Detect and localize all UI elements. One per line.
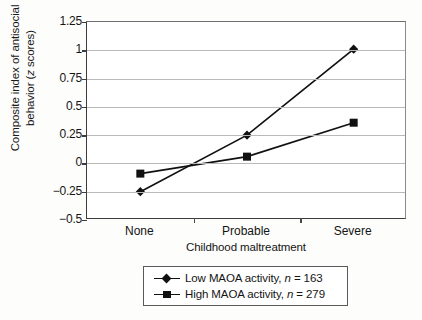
y-axis-title-line-2: behavior (z scores): [23, 0, 38, 178]
x-tick-mark: [300, 218, 301, 223]
y-tick-mark: [82, 107, 87, 108]
y-tick-label: 0.75: [38, 71, 82, 85]
y-tick-mark: [82, 22, 87, 23]
legend-label-low-maoa-post: = 163: [291, 272, 323, 284]
series-line: [140, 49, 353, 192]
y-tick-mark: [82, 220, 87, 221]
gridline: [87, 107, 405, 108]
legend-entry-high-maoa: High MAOA activity, n = 279: [154, 286, 347, 302]
y-tick-mark: [82, 192, 87, 193]
chart-legend: Low MAOA activity, n = 163 High MAOA act…: [143, 266, 348, 306]
y-tick-label: 0.25: [38, 127, 82, 141]
square-data-point: [243, 153, 251, 161]
y-tick-label: 1.25: [38, 14, 82, 28]
legend-label-low-maoa-pre: Low MAOA activity,: [185, 272, 285, 284]
x-tick-label: None: [125, 224, 154, 238]
y-axis-tick-labels: 1.2510.750.50.250−0.25−0.5: [38, 0, 82, 320]
x-axis-title: Childhood maltreatment: [86, 241, 406, 253]
legend-label-high-maoa-post: = 279: [293, 288, 325, 300]
y-axis-title-line-1: Composite index of antisocial: [8, 0, 23, 178]
y-axis-title-line-2-italic: z: [24, 70, 36, 76]
plot-area: [86, 21, 406, 219]
y-tick-mark: [82, 163, 87, 164]
square-data-point: [350, 119, 358, 127]
y-tick-label: 0.5: [38, 99, 82, 113]
legend-label-high-maoa: High MAOA activity, n = 279: [185, 288, 325, 300]
y-axis-title-line-2-pre: behavior (: [24, 76, 36, 126]
y-axis-title-line-2-post: scores): [24, 30, 36, 70]
legend-label-high-maoa-pre: High MAOA activity,: [185, 288, 287, 300]
x-tick-mark: [194, 218, 195, 223]
square-data-point: [136, 170, 144, 178]
diamond-marker-icon: [154, 272, 180, 284]
x-tick-label: Severe: [334, 224, 372, 238]
gridline: [87, 163, 405, 164]
series-line: [140, 123, 353, 174]
gridline: [87, 192, 405, 193]
series-layer: [87, 22, 407, 220]
square-marker-icon: [154, 288, 180, 300]
y-tick-label: −0.5: [38, 212, 82, 226]
y-tick-label: −0.25: [38, 184, 82, 198]
y-tick-mark: [82, 135, 87, 136]
y-tick-mark: [82, 50, 87, 51]
gridline: [87, 50, 405, 51]
x-axis-tick-labels: NoneProbableSevere: [86, 224, 406, 242]
chart-figure: Composite index of antisocial behavior (…: [0, 0, 422, 320]
gridline: [87, 79, 405, 80]
x-tick-label: Probable: [222, 224, 270, 238]
y-tick-mark: [82, 79, 87, 80]
y-tick-label: 0: [38, 155, 82, 169]
gridline: [87, 135, 405, 136]
legend-label-low-maoa: Low MAOA activity, n = 163: [185, 272, 323, 284]
y-tick-label: 1: [38, 42, 82, 56]
legend-entry-low-maoa: Low MAOA activity, n = 163: [154, 270, 347, 286]
